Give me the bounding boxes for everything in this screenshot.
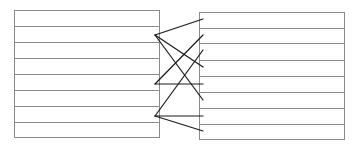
mapping-diagram bbox=[0, 0, 360, 147]
connection-line bbox=[155, 35, 203, 100]
connection-line bbox=[155, 19, 203, 35]
connection-lines bbox=[155, 19, 203, 131]
connection-line bbox=[155, 35, 203, 67]
connection-line bbox=[155, 116, 203, 131]
right-table bbox=[200, 13, 345, 140]
left-table bbox=[15, 11, 160, 138]
